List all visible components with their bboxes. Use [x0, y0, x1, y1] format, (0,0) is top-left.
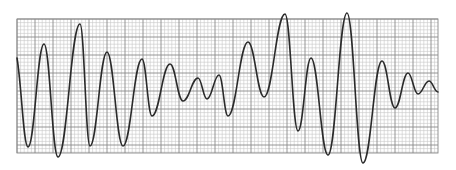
ecg-trace	[17, 13, 438, 163]
ecg-strip	[0, 0, 456, 170]
ecg-chart	[0, 0, 456, 170]
